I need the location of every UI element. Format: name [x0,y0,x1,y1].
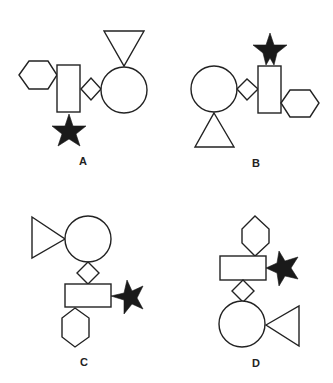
hexagon-icon [19,61,57,89]
triangle-icon [266,306,299,346]
triangle-icon [104,31,144,66]
figure-b: B [191,33,319,169]
star-icon [52,114,86,146]
rectangle-icon [65,284,111,307]
triangle-icon [195,113,234,147]
diamond-icon [77,262,99,284]
circle-icon [65,216,111,262]
star-icon [253,33,287,65]
figure-label-c: C [80,356,88,368]
circle-icon [219,301,265,347]
hexagon-icon [242,216,269,256]
figure-c: C [32,216,143,368]
star-icon [111,280,143,314]
rectangle-icon [220,256,266,280]
figure-d: D [219,216,299,369]
figure-label-d: D [252,357,260,369]
hexagon-icon [281,90,319,117]
diamond-icon [237,79,258,100]
diamond-icon [81,78,101,100]
rectangle-icon [258,66,281,113]
rectangle-icon [57,65,80,112]
triangle-icon [32,217,65,258]
hexagon-icon [62,308,89,347]
star-icon [266,251,298,286]
circle-icon [101,67,147,113]
shape-puzzle-diagram: A B C D [0,0,333,383]
circle-icon [191,66,237,112]
figure-label-b: B [252,157,260,169]
diamond-icon [232,280,254,302]
figure-a: A [19,31,147,167]
figure-label-a: A [79,155,87,167]
